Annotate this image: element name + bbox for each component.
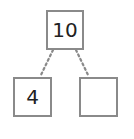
- part-box-left: 4: [13, 77, 52, 117]
- part-left-value: 4: [26, 87, 39, 107]
- connector-left: [40, 50, 53, 77]
- part-box-right-empty[interactable]: [79, 77, 118, 117]
- whole-box: 10: [46, 10, 84, 50]
- connector-right: [76, 50, 89, 77]
- whole-value: 10: [52, 20, 77, 40]
